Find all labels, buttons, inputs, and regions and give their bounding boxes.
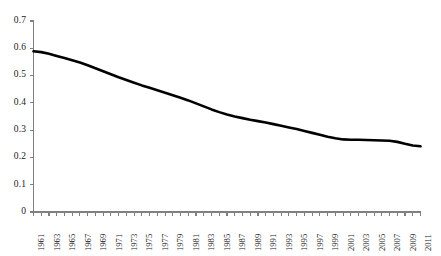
x-tick-label: 2009 [409, 234, 418, 251]
x-tick-label: 1967 [84, 234, 93, 251]
chart-canvas [0, 0, 441, 256]
x-tick-label: 2001 [347, 234, 356, 251]
data-series-line [34, 51, 421, 146]
x-tick-label: 1975 [145, 234, 154, 251]
x-tick-label: 1997 [316, 234, 325, 251]
x-tick-label: 2011 [424, 234, 433, 251]
x-tick-label: 1993 [285, 234, 294, 251]
x-tick-label: 1961 [37, 234, 46, 251]
x-tick-label: 1981 [192, 234, 201, 251]
y-tick-label: 0 [0, 207, 26, 217]
x-tick-label: 1987 [238, 234, 247, 251]
x-tick-label: 1991 [269, 234, 278, 251]
x-tick-label: 1983 [207, 234, 216, 251]
line-chart: 00.10.20.30.40.50.60.7 19611963196519671… [0, 0, 441, 256]
x-tick-label: 1985 [223, 234, 232, 251]
y-tick-label: 0.2 [0, 152, 26, 162]
y-tick-label: 0.5 [0, 70, 26, 80]
y-tick-label: 0.1 [0, 180, 26, 190]
x-tick-label: 1971 [115, 234, 124, 251]
x-tick-label: 1979 [176, 234, 185, 251]
x-tick-label: 1989 [254, 234, 263, 251]
x-tick-label: 1963 [53, 234, 62, 251]
x-tick-label: 2005 [378, 234, 387, 251]
x-tick-label: 1977 [161, 234, 170, 251]
x-tick-label: 1965 [68, 234, 77, 251]
x-tick-label: 1973 [130, 234, 139, 251]
x-tick-label: 1995 [300, 234, 309, 251]
y-tick-label: 0.3 [0, 125, 26, 135]
x-tick-label: 1969 [99, 234, 108, 251]
y-tick-label: 0.7 [0, 16, 26, 26]
y-tick-label: 0.4 [0, 98, 26, 108]
y-tick-label: 0.6 [0, 43, 26, 53]
chart-axes [30, 21, 421, 216]
x-tick-label: 1999 [331, 234, 340, 251]
x-tick-label: 2007 [393, 234, 402, 251]
x-tick-label: 2003 [362, 234, 371, 251]
